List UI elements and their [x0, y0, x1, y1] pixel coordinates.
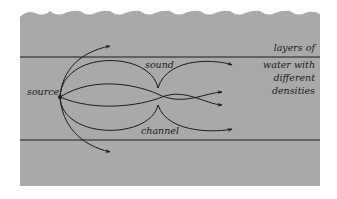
channel-label: channel [141, 125, 179, 136]
sound-channel-diagram: source sound channel layers of water wit… [0, 0, 337, 199]
layers-label-line4: densities [272, 85, 315, 96]
source-label: source [27, 86, 60, 97]
layers-label-line1: layers of [274, 42, 317, 53]
layers-label-line3: different [273, 72, 315, 83]
layers-label-line2: water with [263, 59, 315, 70]
sound-label: sound [145, 59, 174, 70]
